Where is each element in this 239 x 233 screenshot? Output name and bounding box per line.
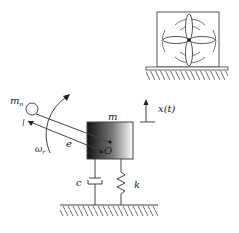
rotation-arrowhead [63,94,70,101]
label-damper: c [76,177,82,188]
label-displacement: x(t) [158,103,176,114]
unbalance-mass [26,103,38,115]
label-main-mass: m [108,111,117,122]
label-unbalance-mass: mo [10,95,23,107]
diagram-canvas: mo m e ωr O x(t) c k [0,0,239,233]
fan-ground-hatch [146,71,228,80]
dimension-tick [23,119,24,126]
ground-hatch [60,206,158,216]
label-spring: k [134,179,140,190]
fan-hub [187,38,191,42]
spring [117,159,125,205]
arm-end [109,141,112,144]
label-pivot: O [104,145,112,156]
fan-inset [146,12,228,80]
fan-base [146,67,228,70]
damper-cylinder [88,180,102,184]
label-eccentricity: e [66,138,72,149]
displacement-arrowhead [144,99,149,105]
label-rotation-speed: ωr [35,144,46,155]
